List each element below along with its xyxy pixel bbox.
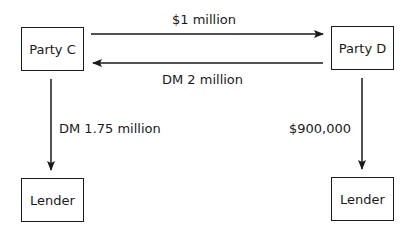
party-c-label: Party C bbox=[29, 42, 76, 57]
lender-left-label: Lender bbox=[30, 193, 75, 208]
edge-label-d-to-c: DM 2 million bbox=[162, 72, 243, 87]
edge-label-d-to-lender: $900,000 bbox=[289, 121, 351, 136]
lender-right-node: Lender bbox=[331, 177, 394, 221]
lender-right-label: Lender bbox=[340, 192, 385, 207]
party-c-node: Party C bbox=[21, 27, 84, 71]
party-d-node: Party D bbox=[331, 26, 394, 70]
party-d-label: Party D bbox=[339, 41, 387, 56]
lender-left-node: Lender bbox=[21, 178, 84, 222]
edge-label-c-to-d: $1 million bbox=[172, 12, 236, 27]
edge-label-c-to-lender: DM 1.75 million bbox=[59, 121, 161, 136]
